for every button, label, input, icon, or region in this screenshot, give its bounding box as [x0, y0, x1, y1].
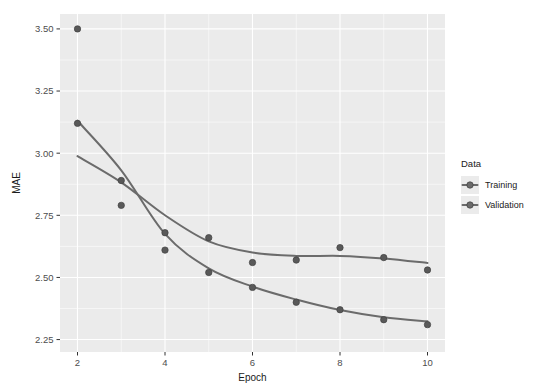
x-tick-label-0: 2 — [75, 357, 80, 368]
data-point-training-epoch-7[interactable] — [293, 299, 299, 305]
data-point-training-epoch-8[interactable] — [337, 307, 343, 313]
legend-title: Data — [461, 158, 482, 169]
data-point-validation-epoch-2[interactable] — [74, 120, 80, 126]
data-point-training-epoch-10[interactable] — [424, 321, 430, 327]
data-point-validation-epoch-6[interactable] — [249, 259, 255, 265]
data-point-training-epoch-4[interactable] — [162, 247, 168, 253]
legend-key-point-1 — [467, 202, 473, 208]
data-point-validation-epoch-3[interactable] — [118, 177, 124, 183]
legend-label-training[interactable]: Training — [485, 180, 517, 190]
data-point-validation-epoch-9[interactable] — [381, 254, 387, 260]
y-tick-label-3: 3.00 — [35, 148, 54, 159]
data-point-training-epoch-5[interactable] — [206, 269, 212, 275]
data-point-validation-epoch-5[interactable] — [206, 234, 212, 240]
y-tick-label-5: 3.50 — [35, 23, 54, 34]
data-point-validation-epoch-7[interactable] — [293, 257, 299, 263]
y-tick-label-4: 3.25 — [35, 85, 54, 96]
y-tick-label-1: 2.50 — [35, 272, 54, 283]
legend-label-validation[interactable]: Validation — [485, 200, 524, 210]
x-tick-label-3: 8 — [337, 357, 342, 368]
y-axis-title: MAE — [11, 172, 22, 194]
y-tick-label-2: 2.75 — [35, 210, 54, 221]
legend-key-point-0 — [467, 182, 473, 188]
data-point-validation-epoch-4[interactable] — [162, 230, 168, 236]
mae-vs-epoch-line-chart: 2.252.502.753.003.253.50246810EpochMAE D… — [0, 0, 547, 386]
x-axis-title: Epoch — [238, 372, 266, 383]
data-point-validation-epoch-8[interactable] — [337, 244, 343, 250]
x-tick-label-2: 6 — [250, 357, 255, 368]
data-point-training-epoch-3[interactable] — [118, 202, 124, 208]
data-point-training-epoch-6[interactable] — [249, 284, 255, 290]
y-tick-label-0: 2.25 — [35, 334, 54, 345]
data-point-training-epoch-2[interactable] — [74, 26, 80, 32]
data-point-training-epoch-9[interactable] — [381, 316, 387, 322]
chart-container: 2.252.502.753.003.253.50246810EpochMAE D… — [0, 0, 547, 386]
x-tick-label-4: 10 — [422, 357, 433, 368]
x-tick-label-1: 4 — [162, 357, 167, 368]
data-point-validation-epoch-10[interactable] — [424, 267, 430, 273]
